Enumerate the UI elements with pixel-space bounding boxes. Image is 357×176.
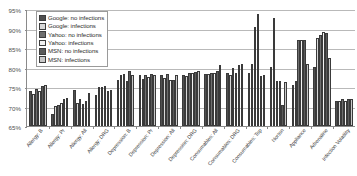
legend-item-label: MSN: no infections [48,48,98,54]
legend-item-label: Google: no infections [48,15,104,21]
bar [350,99,353,126]
x-axis-tick-label: Allergy: All [68,128,88,150]
y-axis-tick-label: 85% [9,46,21,53]
y-axis-tick-label: 90% [9,26,21,33]
y-axis-tick-label: 65% [9,124,21,131]
legend-swatch-icon [39,31,46,38]
x-axis-tick-label: Norton [271,128,285,143]
legend-item[interactable]: MSN: infections [39,55,104,63]
bar-group [202,10,224,126]
legend-item[interactable]: Yahoo: no infections [39,31,104,39]
legend-swatch-icon [39,48,46,55]
legend-item[interactable]: Google: no infections [39,14,104,22]
x-axis-labels: Allergy: BAllergy: PrAllergy: AllAllergy… [26,128,355,176]
legend-item[interactable]: Yahoo: infections [39,39,104,47]
legend-rows: Google: no infectionsGoogle: infectionsY… [39,14,104,64]
bar-group [136,10,158,126]
legend-swatch-icon [39,56,46,63]
bar [284,82,287,126]
legend-swatch-icon [39,40,46,47]
bar-group [224,10,246,126]
legend-item-label: Yahoo: infections [48,40,93,46]
bar-group [311,10,333,126]
bar-group [267,10,289,126]
bar [110,90,113,126]
bar [328,58,331,126]
chart-legend: Google: no infectionsGoogle: infectionsY… [36,11,108,67]
bar-group [333,10,355,126]
y-axis-tick-label: 75% [9,85,21,92]
bar [197,71,200,126]
x-axis-tick-label: Allergy: B [26,128,44,148]
y-axis-tick-label: 80% [9,65,21,72]
bar-group [246,10,268,126]
y-axis-tick-label: 70% [9,104,21,111]
bar [44,85,47,126]
bar [66,98,69,126]
bar [131,75,134,126]
x-axis-tick-label: Adrenaline [309,128,329,150]
bar-group [180,10,202,126]
bar-group [158,10,180,126]
legend-swatch-icon [39,15,46,22]
legend-item-label: Google: infections [48,23,96,29]
y-axis: 65%70%75%80%85%90%95% [0,10,24,127]
bar-chart: 65%70%75%80%85%90%95% Google: no infecti… [0,0,357,176]
legend-item-label: MSN: infections [48,57,90,63]
bar-group [289,10,311,126]
bar [88,93,91,126]
bar [153,75,156,126]
bar [263,75,266,126]
bar [175,75,178,126]
bar-group [114,10,136,126]
x-axis-tick-label: Appliance [288,128,307,149]
bar [219,65,222,126]
bar [241,64,244,126]
y-axis-tick-label: 95% [9,7,21,14]
bar [306,64,309,126]
legend-swatch-icon [39,23,46,30]
legend-item-label: Yahoo: no infections [48,32,102,38]
x-axis-tick-label: Allergy: Pr [47,128,66,150]
legend-item[interactable]: MSN: no infections [39,47,104,55]
legend-item[interactable]: Google: infections [39,22,104,30]
